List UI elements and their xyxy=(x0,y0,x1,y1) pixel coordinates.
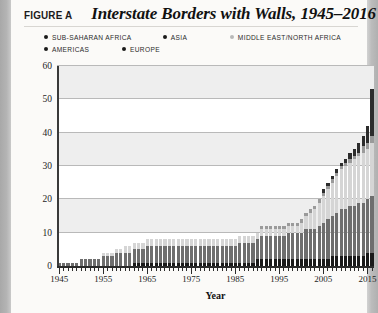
stacked-bar[interactable] xyxy=(115,249,118,266)
stacked-bar[interactable] xyxy=(309,209,312,266)
stacked-bar[interactable] xyxy=(168,239,171,266)
stacked-bar[interactable] xyxy=(177,239,180,266)
bar-segment xyxy=(304,259,307,266)
stacked-bar[interactable] xyxy=(150,239,153,266)
stacked-bar[interactable] xyxy=(190,239,193,266)
stacked-bar[interactable] xyxy=(269,226,272,266)
stacked-bar[interactable] xyxy=(265,226,268,266)
stacked-bar[interactable] xyxy=(296,223,299,266)
legend-item[interactable]: EUROPE xyxy=(122,46,192,53)
bar-segment xyxy=(362,203,365,256)
legend-item[interactable]: ASIA xyxy=(163,34,230,41)
stacked-bar[interactable] xyxy=(234,239,237,266)
stacked-bar[interactable] xyxy=(80,259,83,266)
stacked-bar[interactable] xyxy=(335,169,338,266)
stacked-bar[interactable] xyxy=(216,239,219,266)
stacked-bar[interactable] xyxy=(128,246,131,266)
stacked-bar[interactable] xyxy=(163,239,166,266)
stacked-bar[interactable] xyxy=(133,243,136,266)
stacked-bar[interactable] xyxy=(274,226,277,266)
stacked-bar[interactable] xyxy=(304,213,307,266)
stacked-bar[interactable] xyxy=(247,236,250,266)
bar-segment xyxy=(269,259,272,266)
stacked-bar[interactable] xyxy=(199,239,202,266)
stacked-bar[interactable] xyxy=(172,239,175,266)
stacked-bar[interactable] xyxy=(243,236,246,266)
stacked-bar[interactable] xyxy=(282,226,285,266)
stacked-bar[interactable] xyxy=(260,226,263,266)
bar-segment xyxy=(243,236,246,243)
y-axis-tick-label: 0 xyxy=(26,261,52,271)
stacked-bar[interactable] xyxy=(300,219,303,266)
stacked-bar[interactable] xyxy=(159,239,162,266)
legend-item[interactable]: MIDDLE EAST/NORTH AFRICA xyxy=(230,34,364,41)
stacked-bar[interactable] xyxy=(340,163,343,266)
stacked-bar[interactable] xyxy=(137,243,140,266)
stacked-bar[interactable] xyxy=(203,239,206,266)
stacked-bar[interactable] xyxy=(357,143,360,266)
stacked-bar[interactable] xyxy=(348,153,351,266)
stacked-bar[interactable] xyxy=(88,259,91,266)
figure-header: FIGURE A Interstate Borders with Walls, … xyxy=(24,4,358,26)
stacked-bar[interactable] xyxy=(344,159,347,266)
figure-label: FIGURE A xyxy=(24,9,72,21)
bar-segment xyxy=(335,176,338,213)
stacked-bar[interactable] xyxy=(181,239,184,266)
stacked-bar[interactable] xyxy=(194,239,197,266)
stacked-bar[interactable] xyxy=(331,176,334,266)
stacked-bar[interactable] xyxy=(251,236,254,266)
bar-segment xyxy=(309,229,312,259)
stacked-bar[interactable] xyxy=(212,239,215,266)
bar-segment xyxy=(177,239,180,246)
stacked-bar[interactable] xyxy=(287,223,290,266)
stacked-bar[interactable] xyxy=(225,239,228,266)
stacked-bar[interactable] xyxy=(97,259,100,266)
stacked-bar[interactable] xyxy=(93,259,96,266)
stacked-bar[interactable] xyxy=(291,223,294,266)
stacked-bar[interactable] xyxy=(84,259,87,266)
stacked-bar[interactable] xyxy=(119,249,122,266)
stacked-bar[interactable] xyxy=(370,89,373,266)
stacked-bar[interactable] xyxy=(353,149,356,266)
stacked-bar[interactable] xyxy=(256,233,259,266)
stacked-bar[interactable] xyxy=(155,239,158,266)
stacked-bar[interactable] xyxy=(318,199,321,266)
stacked-bar[interactable] xyxy=(322,189,325,266)
stacked-bar[interactable] xyxy=(146,239,149,266)
bar-segment xyxy=(216,246,219,263)
legend-item[interactable]: AMERICAS xyxy=(44,46,122,53)
stacked-bar[interactable] xyxy=(141,243,144,266)
bar-segment xyxy=(265,259,268,266)
bar-segment xyxy=(326,219,329,259)
stacked-bar[interactable] xyxy=(102,253,105,266)
stacked-bar[interactable] xyxy=(106,253,109,266)
stacked-bar[interactable] xyxy=(366,126,369,266)
stacked-bar[interactable] xyxy=(229,239,232,266)
bar-segment xyxy=(370,196,373,253)
bar-segment xyxy=(366,253,369,266)
stacked-bar[interactable] xyxy=(185,239,188,266)
stacked-bar[interactable] xyxy=(326,183,329,266)
legend-item[interactable]: SUB-SAHARAN AFRICA xyxy=(44,34,163,41)
bar-segment xyxy=(247,236,250,243)
stacked-bar[interactable] xyxy=(207,239,210,266)
stacked-bar[interactable] xyxy=(278,226,281,266)
x-axis-tick-label: 1945 xyxy=(50,274,68,284)
stacked-bar[interactable] xyxy=(110,253,113,266)
legend-label: SUB-SAHARAN AFRICA xyxy=(52,34,132,41)
bar-segment xyxy=(234,246,237,263)
bar-segment xyxy=(278,229,281,236)
stacked-bar[interactable] xyxy=(313,206,316,266)
bar-segment xyxy=(212,239,215,246)
stacked-bar[interactable] xyxy=(362,136,365,266)
bar-segment xyxy=(357,143,360,153)
y-axis-tick-label: 20 xyxy=(26,194,52,204)
bar-segment xyxy=(274,259,277,266)
stacked-bar[interactable] xyxy=(124,246,127,266)
stacked-bar[interactable] xyxy=(238,236,241,266)
stacked-bar[interactable] xyxy=(221,239,224,266)
bar-segment xyxy=(163,239,166,246)
bar-segment xyxy=(362,153,365,203)
bar-segment xyxy=(199,246,202,263)
bar-segment xyxy=(260,236,263,259)
